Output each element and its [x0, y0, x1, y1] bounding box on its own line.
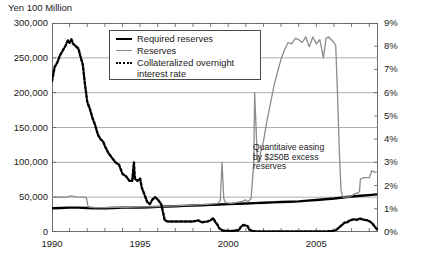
right-tick-label: 0% — [384, 227, 398, 237]
legend-swatch-icon — [115, 46, 133, 57]
left-tick-label: 250,000 — [14, 53, 48, 63]
legend-item[interactable]: Reserves — [115, 46, 256, 57]
left-tick-label: 50,000 — [19, 192, 48, 202]
right-tick-label: 5% — [384, 111, 398, 121]
legend-swatch-icon — [115, 34, 133, 45]
legend-item[interactable]: Collateralized overnight interest rate — [115, 58, 256, 80]
legend: Required reservesReservesCollateralized … — [109, 30, 261, 80]
annotation-quantitative-easing: Quantitaive easing by $250B excess reser… — [253, 143, 327, 172]
left-tick-label: 300,000 — [14, 18, 48, 28]
right-tick-label: 3% — [384, 157, 398, 167]
x-tick-label: 2000 — [208, 239, 248, 249]
x-tick-label: 1995 — [120, 239, 160, 249]
left-tick-label: 150,000 — [14, 123, 48, 133]
y-axis-unit-title: Yen 100 Million — [8, 2, 72, 14]
chart-container: Yen 100 Million 300,000250,000200,000150… — [0, 0, 424, 261]
right-tick-label: 9% — [384, 18, 398, 28]
left-tick-label: 0 — [43, 227, 48, 237]
legend-label: Required reserves — [137, 34, 213, 45]
left-tick-label: 200,000 — [14, 88, 48, 98]
left-tick-label: 100,000 — [14, 157, 48, 167]
legend-item[interactable]: Required reserves — [115, 34, 256, 45]
right-tick-label: 2% — [384, 181, 398, 191]
series-line — [52, 194, 376, 208]
x-tick-label: 1990 — [32, 239, 72, 249]
right-tick-label: 6% — [384, 88, 398, 98]
right-tick-label: 8% — [384, 41, 398, 51]
right-tick-label: 4% — [384, 134, 398, 144]
legend-swatch-icon — [115, 58, 133, 69]
x-tick-label: 2005 — [296, 239, 336, 249]
right-tick-label: 1% — [384, 204, 398, 214]
legend-label: Collateralized overnight interest rate — [137, 58, 255, 80]
legend-label: Reserves — [137, 46, 176, 57]
right-tick-label: 7% — [384, 64, 398, 74]
